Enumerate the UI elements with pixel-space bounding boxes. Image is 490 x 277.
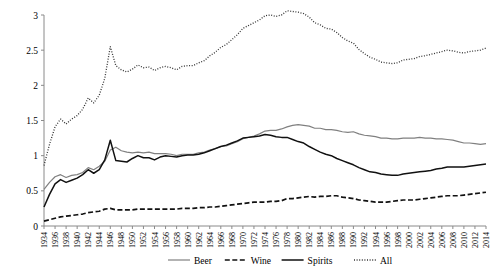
x-tick-label: 1942 bbox=[84, 232, 93, 248]
x-tick-label: 1976 bbox=[272, 232, 281, 248]
legend-label-all: All bbox=[380, 256, 393, 266]
legend-label-beer: Beer bbox=[194, 256, 213, 266]
x-tick-label: 2002 bbox=[416, 232, 425, 248]
x-tick-label: 1986 bbox=[327, 232, 336, 248]
x-tick-label: 1994 bbox=[372, 232, 381, 248]
y-tick-label: 3 bbox=[33, 11, 38, 21]
x-tick-label: 1968 bbox=[228, 232, 237, 248]
legend-label-wine: Wine bbox=[251, 256, 271, 266]
x-tick-label: 2014 bbox=[482, 232, 490, 248]
x-tick-label: 2008 bbox=[449, 232, 458, 248]
line-chart: 00.511.522.53193419361938194019421944194… bbox=[0, 0, 490, 277]
x-tick-label: 1992 bbox=[360, 232, 369, 248]
x-tick-label: 1996 bbox=[383, 232, 392, 248]
y-tick-label: 0 bbox=[33, 222, 38, 232]
x-tick-label: 2012 bbox=[471, 232, 480, 248]
x-tick-label: 1988 bbox=[338, 232, 347, 248]
x-tick-label: 1940 bbox=[73, 232, 82, 248]
x-tick-label: 1966 bbox=[217, 232, 226, 248]
x-tick-label: 1984 bbox=[316, 232, 325, 248]
x-tick-label: 1946 bbox=[106, 232, 115, 248]
x-tick-label: 1970 bbox=[239, 232, 248, 248]
x-tick-label: 2000 bbox=[405, 232, 414, 248]
x-tick-label: 1964 bbox=[206, 232, 215, 248]
y-tick-label: 0.5 bbox=[26, 186, 38, 196]
x-tick-label: 1934 bbox=[40, 232, 49, 248]
series-line-spirits bbox=[44, 135, 486, 207]
x-tick-label: 1960 bbox=[184, 232, 193, 248]
x-tick-label: 1974 bbox=[261, 232, 270, 248]
x-tick-label: 1990 bbox=[349, 232, 358, 248]
chart-container: 00.511.522.53193419361938194019421944194… bbox=[0, 0, 490, 277]
x-tick-label: 2004 bbox=[427, 232, 436, 248]
x-tick-label: 2006 bbox=[438, 232, 447, 248]
x-tick-label: 1936 bbox=[51, 232, 60, 248]
y-tick-label: 2 bbox=[33, 81, 38, 91]
x-tick-label: 1954 bbox=[151, 232, 160, 248]
x-tick-label: 1952 bbox=[139, 232, 148, 248]
x-tick-label: 1950 bbox=[128, 232, 137, 248]
legend-label-spirits: Spirits bbox=[308, 256, 333, 266]
x-tick-label: 1948 bbox=[117, 232, 126, 248]
x-tick-label: 1972 bbox=[250, 232, 259, 248]
y-tick-label: 1.5 bbox=[26, 116, 38, 126]
x-tick-label: 1962 bbox=[195, 232, 204, 248]
x-tick-label: 1956 bbox=[162, 232, 171, 248]
x-tick-label: 1944 bbox=[95, 232, 104, 248]
x-tick-label: 1938 bbox=[62, 232, 71, 248]
x-tick-label: 2010 bbox=[460, 232, 469, 248]
x-tick-label: 1980 bbox=[294, 232, 303, 248]
y-tick-label: 1 bbox=[33, 151, 38, 161]
x-tick-label: 1978 bbox=[283, 232, 292, 248]
x-tick-label: 1998 bbox=[394, 232, 403, 248]
series-line-wine bbox=[44, 192, 486, 221]
x-tick-label: 1982 bbox=[305, 232, 314, 248]
y-tick-label: 2.5 bbox=[26, 46, 38, 56]
x-tick-label: 1958 bbox=[173, 232, 182, 248]
